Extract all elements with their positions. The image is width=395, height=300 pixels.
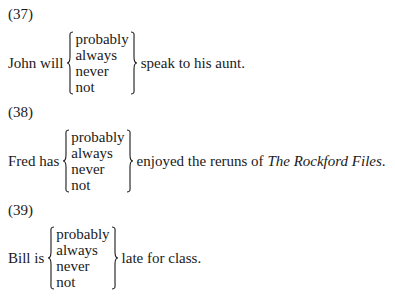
example-sentence: Fred has probably always never not enjoy… — [8, 129, 386, 193]
sentence-predicate: enjoyed the reruns of The Rockford Files… — [137, 153, 386, 170]
option-not: not — [56, 274, 109, 290]
example-number: (38) — [8, 104, 33, 121]
predicate-punctuation: . — [382, 153, 386, 169]
option-never: never — [56, 258, 109, 274]
right-brace-icon — [130, 31, 138, 95]
option-brace-group: probably always never not — [66, 31, 137, 95]
sentence-predicate: late for class. — [122, 250, 202, 267]
sentence-subject: John will — [8, 55, 63, 72]
option-brace-group: probably always never not — [62, 129, 133, 193]
example-sentence: Bill is probably always never not late f… — [8, 226, 201, 290]
right-brace-icon — [111, 226, 119, 290]
option-list: probably always never not — [74, 31, 129, 95]
option-always: always — [71, 145, 124, 161]
left-brace-icon — [47, 226, 55, 290]
option-never: never — [75, 63, 128, 79]
option-never: never — [71, 161, 124, 177]
option-probably: probably — [75, 31, 128, 47]
option-probably: probably — [71, 129, 124, 145]
right-brace-icon — [126, 129, 134, 193]
predicate-text: enjoyed the reruns of — [137, 153, 268, 169]
option-brace-group: probably always never not — [47, 226, 118, 290]
option-probably: probably — [56, 226, 109, 242]
option-list: probably always never not — [70, 129, 125, 193]
sentence-predicate: speak to his aunt. — [141, 55, 245, 72]
option-list: probably always never not — [55, 226, 110, 290]
example-number: (37) — [8, 6, 33, 23]
example-number: (39) — [8, 202, 33, 219]
show-title: The Rockford Files — [267, 153, 381, 169]
option-always: always — [56, 242, 109, 258]
option-not: not — [71, 177, 124, 193]
left-brace-icon — [66, 31, 74, 95]
example-sentence: John will probably always never not spea… — [8, 31, 245, 95]
left-brace-icon — [62, 129, 70, 193]
sentence-subject: Bill is — [8, 250, 44, 267]
option-not: not — [75, 79, 128, 95]
option-always: always — [75, 47, 128, 63]
sentence-subject: Fred has — [8, 153, 59, 170]
